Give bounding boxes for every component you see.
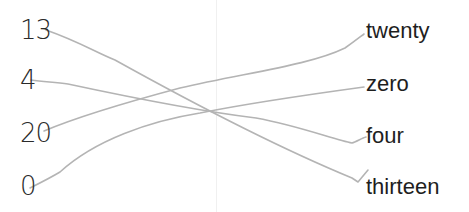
number-0[interactable]: 0	[20, 173, 36, 199]
match-line-20-twenty	[44, 34, 364, 131]
word-four[interactable]: four	[366, 125, 404, 147]
number-20[interactable]: 20	[20, 120, 51, 146]
word-thirteen[interactable]: thirteen	[366, 176, 439, 198]
match-line-4-four	[31, 80, 366, 143]
number-13[interactable]: 13	[20, 17, 51, 43]
word-zero[interactable]: zero	[366, 73, 409, 95]
match-line-13-thirteen	[46, 30, 368, 182]
match-line-0-zero	[30, 87, 364, 188]
number-4[interactable]: 4	[20, 67, 36, 93]
word-twenty[interactable]: twenty	[366, 20, 430, 42]
matching-worksheet: 13 4 20 0 twenty zero four thirteen	[0, 0, 469, 212]
